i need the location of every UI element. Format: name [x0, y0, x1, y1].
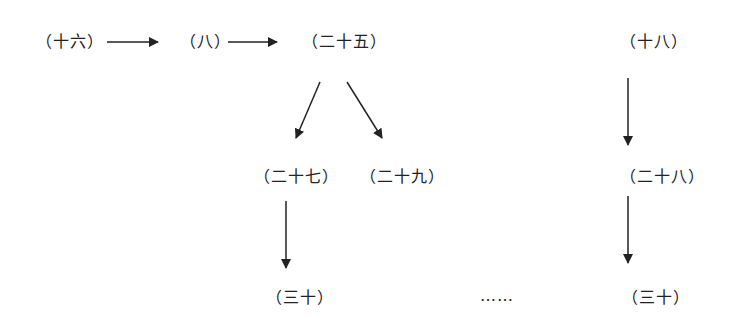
node-18: （十八）: [620, 32, 688, 52]
node-30-left: （三十）: [266, 288, 334, 308]
ellipsis: ……: [480, 286, 514, 306]
node-8: （八）: [180, 32, 231, 52]
node-29: （二十九）: [360, 167, 445, 187]
arrow-25-to-29: [347, 82, 382, 138]
node-28: （二十八）: [620, 167, 705, 187]
arrow-25-to-27: [296, 82, 320, 138]
node-27: （二十七）: [254, 167, 339, 187]
node-25: （二十五）: [302, 32, 387, 52]
node-16: （十六）: [36, 32, 104, 52]
node-30-right: （三十）: [622, 288, 690, 308]
